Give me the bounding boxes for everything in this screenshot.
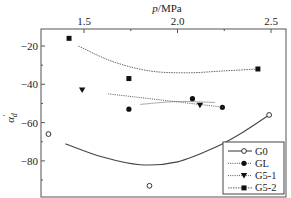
data-point-g0 <box>46 132 51 137</box>
data-point-g5-2 <box>126 76 131 81</box>
y-tick-label: −20 <box>21 40 39 52</box>
data-point-g5-2 <box>255 66 260 71</box>
data-point-g5-1 <box>79 88 85 94</box>
legend-label: G5-1 <box>255 170 277 181</box>
fit-curve-g5-1 <box>108 94 224 107</box>
x-tick-label: 2.5 <box>264 15 278 27</box>
svg-text:α'd: α'd <box>2 112 19 123</box>
x-tick-label: 1.5 <box>77 15 91 27</box>
data-point-gl <box>126 107 131 112</box>
legend-label: G0 <box>255 146 268 157</box>
y-axis-title: α'd <box>2 112 19 123</box>
x-axis-title: p/MPa <box>151 2 181 14</box>
fit-curve-g5-2 <box>78 46 258 73</box>
legend-marker-gl <box>241 161 246 166</box>
legend-marker-g0 <box>242 149 247 154</box>
y-tick-label: −60 <box>21 117 39 129</box>
x-tick-label: 2.0 <box>171 15 185 27</box>
data-point-g0 <box>267 113 272 118</box>
series-gl <box>126 96 225 112</box>
data-point-g0 <box>147 183 152 188</box>
legend-label: GL <box>255 158 269 169</box>
data-point-g5-1 <box>197 103 203 109</box>
legend-label: G5-2 <box>255 182 277 193</box>
data-point-g5-2 <box>67 36 72 41</box>
x-axis-ticks: 1.52.02.5 <box>77 15 278 33</box>
legend-marker-g5-2 <box>242 185 247 190</box>
data-point-gl <box>190 96 195 101</box>
legend: G0GLG5-1G5-2 <box>223 142 284 194</box>
series-g5-1 <box>79 88 224 109</box>
series-g5-2 <box>67 36 261 81</box>
fit-curve-gl <box>140 101 215 104</box>
y-tick-label: −40 <box>21 78 39 90</box>
chart-canvas: 1.52.02.5 −20−40−60−80 p/MPa α'd G0GLG5-… <box>0 0 291 198</box>
y-tick-label: −80 <box>21 155 39 167</box>
